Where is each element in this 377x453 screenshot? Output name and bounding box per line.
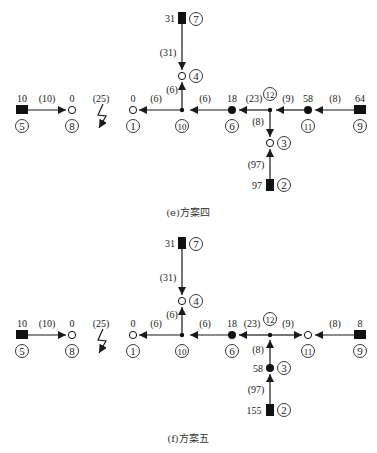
edge-labels-f: (10) (25) (6) (6) (23) (9) (8) (31) (6) … bbox=[39, 272, 341, 396]
node-8 bbox=[68, 106, 75, 113]
node-8-value: 0 bbox=[70, 93, 75, 104]
edge-10-1-label: (6) bbox=[150, 318, 162, 330]
node-4-id: 4 bbox=[193, 70, 199, 82]
fault-label: (25) bbox=[93, 318, 110, 330]
node-3 bbox=[266, 364, 274, 372]
node-5-value: 10 bbox=[17, 318, 27, 329]
node-5-source bbox=[16, 105, 28, 114]
diagram-f: 5 8 1 10 6 11 9 7 4 12 3 2 10 0 0 18 8 3… bbox=[16, 237, 367, 444]
node-10-id: 10 bbox=[178, 122, 188, 132]
node-11-value: 58 bbox=[303, 93, 313, 104]
node-10-junction bbox=[180, 333, 184, 337]
node-12-junction bbox=[268, 108, 272, 112]
node-6-value: 18 bbox=[227, 318, 237, 329]
edge-9-11-label: (8) bbox=[329, 318, 341, 330]
node-7-id: 7 bbox=[193, 13, 199, 25]
edge-5-8-label: (10) bbox=[39, 93, 56, 105]
edge-labels-e: (10) (25) (6) (6) (23) (9) (8) (31) (6) … bbox=[39, 47, 341, 171]
node-12-junction bbox=[268, 333, 272, 337]
node-5-value: 10 bbox=[17, 93, 27, 104]
node-1 bbox=[129, 331, 136, 338]
node-5-source bbox=[16, 330, 28, 339]
node-2-id: 2 bbox=[281, 179, 287, 191]
node-8-id: 8 bbox=[69, 345, 75, 357]
node-8-value: 0 bbox=[70, 318, 75, 329]
edge-10-1-label: (6) bbox=[150, 93, 162, 105]
node-12-id: 12 bbox=[266, 90, 275, 100]
node-4 bbox=[178, 297, 185, 304]
caption-f: (f)方案五 bbox=[167, 432, 209, 444]
node-3-id: 3 bbox=[281, 137, 287, 149]
edge-5-8-label: (10) bbox=[39, 318, 56, 330]
node-9-id: 9 bbox=[357, 120, 363, 132]
node-11-id: 11 bbox=[304, 122, 313, 132]
node-6-value: 18 bbox=[227, 93, 237, 104]
node-6 bbox=[228, 106, 236, 114]
fault-label: (25) bbox=[93, 93, 110, 105]
node-10-junction bbox=[180, 108, 184, 112]
edge-2-3-label: (97) bbox=[248, 384, 265, 396]
node-values-f: 10 0 0 18 8 31 58 155 bbox=[17, 238, 363, 416]
edge-11-12-label: (9) bbox=[282, 93, 294, 105]
node-2-source bbox=[266, 179, 274, 191]
node-9-value: 64 bbox=[355, 93, 365, 104]
node-3-id: 3 bbox=[281, 362, 287, 374]
node-2-id: 2 bbox=[281, 404, 287, 416]
node-9-id: 9 bbox=[357, 345, 363, 357]
node-7-value: 31 bbox=[165, 238, 175, 249]
node-8 bbox=[68, 331, 75, 338]
node-9-source bbox=[354, 330, 366, 339]
edge-10-4-label: (6) bbox=[166, 84, 178, 96]
edge-12-11-label: (9) bbox=[282, 318, 294, 330]
edge-12-6-label: (23) bbox=[244, 318, 261, 330]
edge-10-4-label: (6) bbox=[166, 309, 178, 321]
node-1 bbox=[129, 106, 136, 113]
edge-3-12-label: (8) bbox=[252, 344, 264, 356]
node-id-rings-f bbox=[16, 238, 367, 417]
edge-6-10-label: (6) bbox=[199, 93, 211, 105]
node-8-id: 8 bbox=[69, 120, 75, 132]
node-5-id: 5 bbox=[19, 345, 25, 357]
edge-7-4-label: (31) bbox=[160, 47, 177, 59]
edge-7-4-label: (31) bbox=[160, 272, 177, 284]
node-3 bbox=[266, 139, 273, 146]
node-6-id: 6 bbox=[229, 120, 235, 132]
edge-9-11-label: (8) bbox=[329, 93, 341, 105]
node-5-id: 5 bbox=[19, 120, 25, 132]
diagram-e: 5 8 1 10 6 11 9 7 4 12 3 2 10 0 0 18 58 … bbox=[16, 12, 367, 218]
node-values-e: 10 0 0 18 58 64 31 97 bbox=[17, 13, 365, 191]
node-1-id: 1 bbox=[130, 345, 136, 357]
node-4 bbox=[178, 72, 185, 79]
edge-2-3-label: (97) bbox=[248, 159, 265, 171]
node-1-value: 0 bbox=[131, 93, 136, 104]
node-11 bbox=[304, 331, 311, 338]
node-7-source bbox=[178, 12, 186, 24]
node-6 bbox=[228, 331, 236, 339]
node-1-value: 0 bbox=[131, 318, 136, 329]
edge-12-3-label: (8) bbox=[252, 116, 264, 128]
edge-6-10-label: (6) bbox=[199, 318, 211, 330]
node-9-source bbox=[354, 105, 366, 114]
network-diagrams: 5 8 1 10 6 11 9 7 4 12 3 2 10 0 0 18 58 … bbox=[0, 0, 377, 453]
node-2-source bbox=[266, 404, 274, 416]
node-9-value: 8 bbox=[358, 318, 363, 329]
node-7-source bbox=[178, 237, 186, 249]
node-11-id: 11 bbox=[304, 347, 313, 357]
node-2-value: 97 bbox=[252, 180, 262, 191]
edges-f bbox=[28, 249, 354, 404]
node-2-value: 155 bbox=[247, 405, 262, 416]
fault-icon bbox=[98, 104, 106, 128]
node-10-id: 10 bbox=[178, 347, 188, 357]
node-1-id: 1 bbox=[130, 120, 136, 132]
node-12-id: 12 bbox=[266, 315, 275, 325]
node-7-value: 31 bbox=[165, 13, 175, 24]
node-id-rings-e bbox=[16, 13, 367, 192]
fault-icon bbox=[98, 329, 106, 353]
node-3-value: 58 bbox=[253, 363, 263, 374]
node-11 bbox=[304, 106, 312, 114]
node-4-id: 4 bbox=[193, 295, 199, 307]
caption-e: (e)方案四 bbox=[166, 206, 210, 218]
node-7-id: 7 bbox=[193, 238, 199, 250]
node-6-id: 6 bbox=[229, 345, 235, 357]
edge-12-6-label: (23) bbox=[246, 93, 263, 105]
